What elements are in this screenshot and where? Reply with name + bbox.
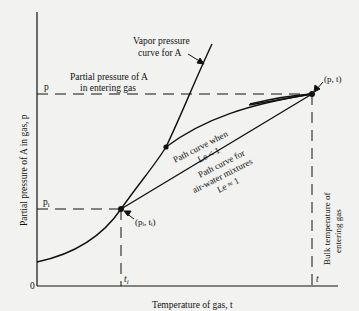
bulk-temp-label-2: entering gas <box>333 209 343 253</box>
piti-arrowhead <box>124 211 131 216</box>
y-tick-pi: pi <box>43 197 50 209</box>
x-tick-t: t <box>316 274 319 284</box>
psychrometric-path-diagram: Vapor pressure curve for A Partial press… <box>0 0 359 311</box>
interface-point <box>118 206 124 212</box>
vapor-curve-label-2: curve for A <box>138 48 181 58</box>
x-axis-label: Temperature of gas, t <box>152 300 233 310</box>
y-tick-p: p <box>44 82 49 92</box>
vapor-curve-label-1: Vapor pressure <box>133 36 190 46</box>
bulk-temp-label-1: Bulk temperature of <box>322 193 332 265</box>
partial-pressure-label-1: Partial pressure of A <box>70 72 148 82</box>
origin-label: 0 <box>30 281 35 291</box>
point-interface-label: (pᵢ, tᵢ) <box>135 217 155 227</box>
partial-pressure-label-2: in entering gas <box>80 83 136 93</box>
point-entering-label: (p, t) <box>324 74 342 84</box>
le-intersection-point <box>163 144 168 149</box>
y-axis-label: Partial pressure of A in gas, p <box>19 114 29 226</box>
path-curve-le-less-than-1 <box>166 94 312 147</box>
reference-lines <box>37 94 312 286</box>
vapor-curve-arrowhead <box>197 58 204 64</box>
x-tick-ti: ti <box>124 274 129 286</box>
